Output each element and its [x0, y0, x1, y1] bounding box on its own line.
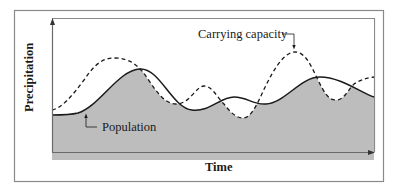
y-axis-label: Precipitation: [22, 43, 36, 112]
population-label: Population: [102, 120, 157, 134]
diagram-figure: Carrying capacity Population Time Precip…: [0, 0, 396, 189]
carrying-capacity-label: Carrying capacity: [198, 27, 288, 41]
x-axis-label: Time: [205, 160, 233, 174]
diagram-canvas: Carrying capacity Population Time Precip…: [0, 0, 396, 189]
